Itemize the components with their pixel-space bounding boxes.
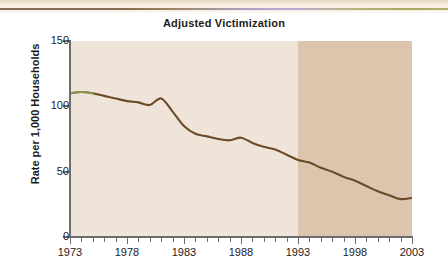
x-tick-mark <box>287 238 288 242</box>
x-tick-mark <box>298 238 299 244</box>
x-tick-mark <box>116 238 117 242</box>
x-tick-mark <box>138 238 139 242</box>
x-tick-label: 1973 <box>50 246 90 258</box>
x-tick-mark <box>378 238 379 242</box>
x-tick-mark <box>252 238 253 242</box>
x-tick-mark <box>321 238 322 242</box>
x-tick-mark <box>150 238 151 242</box>
x-tick-mark <box>70 238 71 244</box>
y-axis-title: Rate per 1,000 Households <box>29 24 41 204</box>
series-line-path <box>70 92 412 199</box>
x-tick-mark <box>309 238 310 242</box>
x-tick-mark <box>173 238 174 242</box>
x-tick-mark <box>230 238 231 242</box>
x-tick-mark <box>207 238 208 242</box>
x-tick-mark <box>218 238 219 242</box>
x-tick-mark <box>332 238 333 242</box>
y-tick-label: 0 <box>35 230 69 242</box>
x-tick-mark <box>389 238 390 242</box>
x-tick-label: 2003 <box>392 246 432 258</box>
x-tick-label: 1998 <box>335 246 375 258</box>
x-tick-label: 1993 <box>278 246 318 258</box>
x-tick-mark <box>355 238 356 244</box>
x-tick-label: 1988 <box>221 246 261 258</box>
chart-page: Adjusted Victimization 150100500 1973197… <box>0 0 448 275</box>
x-tick-label: 1983 <box>164 246 204 258</box>
x-tick-mark <box>401 238 402 242</box>
series-line-path-highlight <box>70 92 93 93</box>
x-tick-mark <box>241 238 242 244</box>
x-tick-label: 1978 <box>107 246 147 258</box>
y-axis-line <box>69 40 71 238</box>
plot-area <box>70 41 412 237</box>
x-tick-mark <box>161 238 162 242</box>
x-tick-mark <box>344 238 345 242</box>
x-tick-mark <box>81 238 82 242</box>
x-tick-mark <box>275 238 276 242</box>
x-tick-mark <box>184 238 185 244</box>
x-tick-mark <box>127 238 128 244</box>
series-line-chart <box>70 41 412 237</box>
x-tick-mark <box>93 238 94 242</box>
x-tick-mark <box>264 238 265 242</box>
x-tick-mark <box>412 238 413 244</box>
x-tick-mark <box>195 238 196 242</box>
x-tick-mark <box>104 238 105 242</box>
x-tick-mark <box>366 238 367 242</box>
